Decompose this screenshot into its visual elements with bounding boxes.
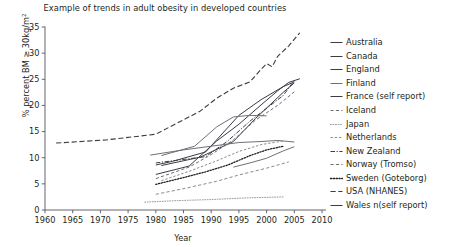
x-axis-tick-label: 1975 bbox=[118, 215, 139, 225]
legend-item-label: England bbox=[346, 65, 380, 74]
legend-line-swatch bbox=[330, 160, 343, 169]
legend-item-label: Australia bbox=[346, 38, 383, 47]
legend-item[interactable]: Canada bbox=[330, 50, 455, 64]
y-axis-tick-label: 5 bbox=[34, 179, 39, 189]
x-axis-tick-label: 1990 bbox=[201, 215, 222, 225]
legend-line-swatch bbox=[330, 147, 343, 156]
y-axis-tick-label: 15 bbox=[29, 126, 39, 136]
legend-item-label: Norway (Tromso) bbox=[346, 160, 416, 169]
series-line bbox=[56, 33, 300, 143]
legend-item[interactable]: Norway (Tromso) bbox=[330, 158, 455, 172]
series-line bbox=[161, 115, 266, 155]
legend-item[interactable]: Finland bbox=[330, 77, 455, 91]
legend-item-label: Sweden (Goteborg) bbox=[346, 174, 427, 183]
x-axis-tick-label: 1980 bbox=[145, 215, 166, 225]
legend-line-swatch bbox=[330, 120, 343, 129]
legend-line-swatch bbox=[330, 92, 343, 101]
legend-item-label: Finland bbox=[346, 79, 376, 88]
x-axis-tick-label: 1985 bbox=[173, 215, 194, 225]
legend-line-swatch bbox=[330, 133, 343, 142]
legend-item[interactable]: Wales n(self report) bbox=[330, 199, 455, 213]
y-axis-tick-label: 0 bbox=[34, 205, 39, 215]
legend-item-label: New Zealand bbox=[346, 147, 401, 156]
chart-root: Example of trends in adult obesity in de… bbox=[0, 0, 455, 247]
x-axis-tick-label: 2010 bbox=[312, 215, 333, 225]
legend-item-label: Canada bbox=[346, 52, 378, 61]
legend-line-swatch bbox=[330, 38, 343, 47]
legend-item-label: USA (NHANES) bbox=[346, 187, 407, 196]
legend-line-swatch bbox=[330, 201, 343, 210]
series-layer bbox=[56, 33, 300, 202]
x-axis-tick-label: 1970 bbox=[90, 215, 111, 225]
legend-line-swatch bbox=[330, 52, 343, 61]
legend-item[interactable]: New Zealand bbox=[330, 144, 455, 158]
x-axis-tick-label: 1960 bbox=[35, 215, 56, 225]
x-axis-tick-label: 1965 bbox=[62, 215, 83, 225]
legend-line-swatch bbox=[330, 187, 343, 196]
y-axis-tick-label: 30 bbox=[29, 48, 39, 58]
legend-item[interactable]: Iceland bbox=[330, 104, 455, 118]
legend-item-label: Wales n(self report) bbox=[346, 201, 428, 210]
axis-layer bbox=[42, 27, 326, 214]
x-axis-tick-label: 2005 bbox=[284, 215, 305, 225]
legend-item[interactable]: Australia bbox=[330, 36, 455, 50]
legend-item[interactable]: France (self report) bbox=[330, 90, 455, 104]
x-axis-title: Year bbox=[173, 233, 192, 243]
y-axis-tick-label: 10 bbox=[29, 153, 39, 163]
legend-item[interactable]: England bbox=[330, 63, 455, 77]
legend: AustraliaCanadaEnglandFinlandFrance (sel… bbox=[330, 36, 455, 212]
tick-label-layer: 0510152025303519601965197019751980198519… bbox=[29, 22, 332, 225]
legend-item-label: Iceland bbox=[346, 106, 376, 115]
legend-line-swatch bbox=[330, 106, 343, 115]
legend-item[interactable]: Netherlands bbox=[330, 131, 455, 145]
series-line bbox=[161, 83, 294, 166]
legend-item-label: France (self report) bbox=[346, 92, 425, 101]
y-axis-tick-label: 25 bbox=[29, 74, 39, 84]
y-axis-tick-label: 35 bbox=[29, 22, 39, 32]
x-axis-tick-label: 1995 bbox=[228, 215, 249, 225]
legend-item-label: Japan bbox=[346, 120, 369, 129]
legend-item[interactable]: Sweden (Goteborg) bbox=[330, 171, 455, 185]
y-axis-tick-label: 20 bbox=[29, 100, 39, 110]
legend-line-swatch bbox=[330, 174, 343, 183]
series-line bbox=[145, 197, 284, 202]
legend-item[interactable]: Japan bbox=[330, 117, 455, 131]
series-line bbox=[233, 147, 294, 167]
x-axis-tick-label: 2000 bbox=[256, 215, 277, 225]
legend-item-label: Netherlands bbox=[346, 133, 397, 142]
legend-item[interactable]: USA (NHANES) bbox=[330, 185, 455, 199]
legend-line-swatch bbox=[330, 79, 343, 88]
legend-line-swatch bbox=[330, 65, 343, 74]
